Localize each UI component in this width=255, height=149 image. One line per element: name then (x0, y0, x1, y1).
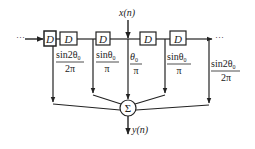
connector-right (135, 95, 165, 104)
coef-subscript: 0 (112, 55, 115, 61)
delay-block-4: D (140, 32, 156, 45)
svg-text:θ0: θ0 (130, 51, 138, 63)
coef-subscript: 0 (135, 57, 138, 63)
coefficient-left: sinθ0 π (96, 49, 119, 74)
delay-label: D (173, 33, 182, 45)
continuation-left: ··· (16, 32, 25, 42)
svg-text:sin2θ0: sin2θ0 (56, 49, 80, 61)
connector-far-right (136, 105, 209, 110)
coef-subscript: 0 (77, 55, 80, 61)
svg-text:sinθ0: sinθ0 (167, 51, 186, 63)
coef-denominator: 2π (65, 63, 75, 74)
coef-numerator: sinθ (167, 51, 184, 62)
svg-text:sinθ0: sinθ0 (96, 49, 115, 61)
summing-junction: Σ (120, 100, 136, 116)
connector-left (93, 95, 121, 104)
coef-subscript: 0 (232, 64, 235, 70)
coefficient-right: sinθ0 π (167, 51, 191, 76)
coefficient-far-right: sin2θ0 2π (211, 58, 240, 83)
delay-block-5: D (170, 31, 186, 45)
delay-label: D (143, 33, 152, 45)
coef-numerator: sin2θ (211, 58, 233, 69)
coef-denominator: π (176, 65, 181, 76)
delay-block-3: D (96, 32, 110, 45)
coef-subscript: 0 (183, 57, 186, 63)
delay-label: D (45, 33, 54, 45)
coef-denominator: 2π (221, 72, 231, 83)
delay-label: D (98, 33, 107, 45)
input-label: x(n) (118, 7, 136, 19)
sigma-symbol: Σ (125, 102, 131, 114)
coef-denominator: π (104, 63, 109, 74)
coefficient-center: θ0 π (130, 51, 142, 76)
svg-text:sin2θ0: sin2θ0 (211, 58, 235, 70)
delay-label: D (64, 33, 73, 45)
delay-block-2: D (60, 32, 77, 45)
coefficient-far-left: sin2θ0 2π (56, 49, 84, 74)
connector-far-left (53, 104, 120, 110)
fir-filter-block-diagram: ··· ··· D D D D D x(n) Σ (0, 0, 255, 149)
delay-block-1: D (44, 31, 56, 46)
continuation-right: ··· (215, 32, 224, 42)
coef-numerator: sin2θ (56, 49, 78, 60)
coef-denominator: π (133, 65, 138, 76)
coef-numerator: sinθ (96, 49, 113, 60)
output-label: y(n) (131, 124, 149, 136)
